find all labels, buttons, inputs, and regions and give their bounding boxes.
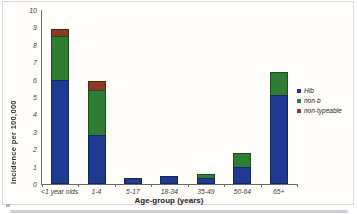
bar-segment-non-b (270, 72, 288, 95)
bar-slot (42, 10, 78, 184)
x-axis-title: Age-group (years) (41, 196, 297, 205)
bar-slot (224, 10, 260, 184)
y-tick-label: 1 (33, 163, 37, 170)
x-tick-mark (261, 184, 262, 187)
bar-segment-hib (51, 80, 69, 184)
bars-group (42, 10, 297, 184)
bar-segment-hib (197, 178, 215, 184)
bar-slot (188, 10, 224, 184)
x-tick-mark (42, 184, 43, 187)
x-category-label: 35-49 (188, 188, 224, 195)
y-tick-label: 2 (33, 146, 37, 153)
legend-label: non-typeable (304, 107, 342, 115)
x-category-label: 65+ (261, 188, 297, 195)
legend-label: non-b (304, 97, 321, 105)
page: Incidence per 100,000 012345678910 <1 ye… (0, 0, 358, 214)
bar-slot (115, 10, 151, 184)
legend-swatch-non-b (297, 99, 301, 103)
stacked-bar (88, 81, 106, 184)
legend-item: non-typeable (297, 107, 342, 115)
legend-swatch-non-typeable (297, 109, 301, 113)
y-tick-label: 0 (33, 181, 37, 188)
bar-slot (151, 10, 187, 184)
x-category-label: 50-64 (224, 188, 260, 195)
plot-area (41, 10, 297, 185)
legend-item: Hib (297, 87, 342, 95)
artifact-mark (6, 204, 10, 207)
x-tick-mark (188, 184, 189, 187)
legend: Hibnon-bnon-typeable (297, 87, 342, 117)
stacked-bar (233, 153, 251, 184)
bar-segment-non-b (88, 90, 106, 135)
chart-figure: Incidence per 100,000 012345678910 <1 ye… (2, 1, 354, 205)
stacked-bar (160, 176, 178, 184)
x-axis-labels: <1 year olds1-45-1718-3435-4950-6465+ (41, 188, 297, 195)
bar-segment-hib (88, 135, 106, 184)
x-category-label: <1 year olds (41, 188, 78, 195)
x-tick-mark (224, 184, 225, 187)
y-tick-label: 4 (33, 111, 37, 118)
legend-label: Hib (304, 87, 314, 95)
legend-swatch-hib (297, 89, 301, 93)
x-tick-mark (297, 184, 298, 187)
bar-segment-hib (270, 95, 288, 184)
x-category-label: 5-17 (115, 188, 151, 195)
y-tick-label: 5 (33, 94, 37, 101)
bar-segment-non-b (51, 36, 69, 80)
y-tick-label: 8 (33, 41, 37, 48)
legend-item: non-b (297, 97, 342, 105)
bar-segment-non-b (233, 153, 251, 167)
y-tick-label: 10 (29, 7, 37, 14)
bar-segment-hib (233, 167, 251, 184)
page-shadow (10, 210, 348, 213)
bar-segment-non-typeable (51, 29, 69, 36)
bar-segment-non-typeable (88, 81, 106, 90)
stacked-bar (197, 174, 215, 184)
bar-slot (261, 10, 297, 184)
stacked-bar (124, 178, 142, 184)
y-tick-label: 7 (33, 59, 37, 66)
x-tick-mark (115, 184, 116, 187)
stacked-bar (270, 72, 288, 184)
x-category-label: 18-34 (151, 188, 187, 195)
bar-slot (78, 10, 114, 184)
stacked-bar (51, 29, 69, 184)
y-tick-label: 3 (33, 128, 37, 135)
x-category-label: 1-4 (78, 188, 114, 195)
x-tick-mark (78, 184, 79, 187)
x-tick-mark (151, 184, 152, 187)
y-tick-label: 9 (33, 24, 37, 31)
bar-segment-hib (124, 178, 142, 184)
y-tick-label: 6 (33, 76, 37, 83)
bar-segment-hib (160, 176, 178, 184)
y-axis-ticks: 012345678910 (3, 10, 41, 184)
